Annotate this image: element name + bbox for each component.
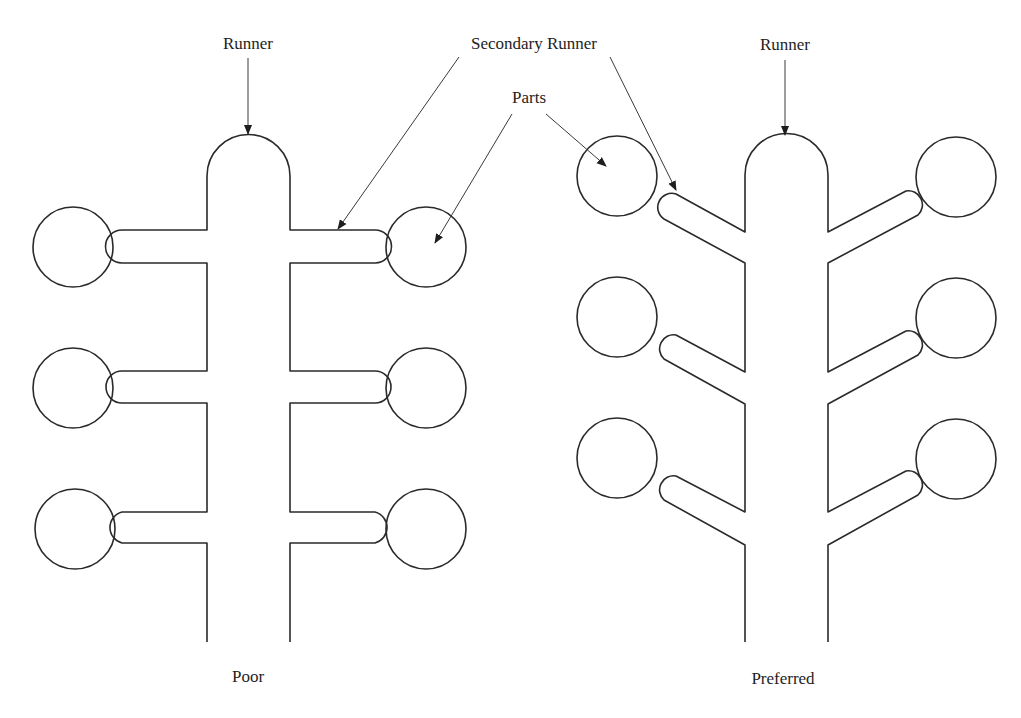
parts-arrow-left — [435, 114, 512, 243]
poor-part-left-1 — [33, 207, 113, 287]
preferred-part-right-2 — [916, 278, 996, 358]
parts-label: Parts — [512, 89, 546, 106]
secondary-runner-arrow-right — [610, 57, 676, 190]
poor-layout — [33, 135, 466, 643]
runner-diagram — [0, 0, 1021, 718]
poor-part-left-2 — [33, 348, 113, 428]
runner-left-label: Runner — [223, 35, 273, 52]
runner-right-label: Runner — [760, 36, 810, 53]
poor-part-right-2 — [386, 348, 466, 428]
poor-caption: Poor — [232, 668, 264, 685]
preferred-main-runner — [658, 134, 923, 643]
secondary-runner-arrow-left — [338, 57, 459, 229]
preferred-part-left-1 — [577, 136, 657, 216]
poor-part-right-1 — [386, 207, 466, 287]
poor-part-right-3 — [386, 489, 466, 569]
leader-lines — [248, 57, 785, 243]
poor-main-runner — [106, 135, 392, 643]
secondary-runner-label: Secondary Runner — [471, 35, 597, 52]
preferred-part-left-3 — [577, 418, 657, 498]
preferred-part-right-3 — [916, 419, 996, 499]
preferred-caption: Preferred — [751, 670, 814, 687]
preferred-part-right-1 — [916, 137, 996, 217]
preferred-layout — [577, 134, 996, 643]
parts-arrow-right — [546, 114, 606, 166]
preferred-part-left-2 — [577, 277, 657, 357]
poor-part-left-3 — [35, 489, 115, 569]
